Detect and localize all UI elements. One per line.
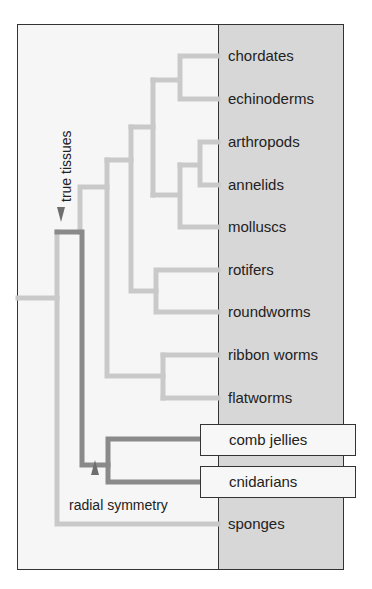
branch-molluscs (153, 165, 218, 227)
annotation-radial-symmetry: radial symmetry (69, 497, 168, 513)
branch-rotifers-roundworms (156, 270, 218, 312)
taxon-flatworms: flatworms (228, 389, 292, 407)
taxon-annelids: annelids (228, 176, 284, 194)
phylogenetic-tree (0, 0, 372, 589)
taxon-arthropods: arthropods (228, 133, 300, 151)
annotation-true-tissues: true tissues (58, 130, 74, 202)
taxon-molluscs: molluscs (228, 218, 286, 236)
taxon-box-comb-jellies: comb jellies (200, 424, 356, 456)
taxon-comb-jellies: comb jellies (229, 431, 307, 449)
branch-true-tissues (57, 232, 108, 465)
taxon-ribbon-worms: ribbon worms (228, 346, 318, 364)
taxon-echinoderms: echinoderms (228, 90, 314, 108)
true-tissues-marker-icon (57, 207, 65, 222)
light-branches (18, 56, 218, 524)
taxon-box-cnidarians: cnidarians (200, 466, 356, 498)
taxon-roundworms: roundworms (228, 303, 311, 321)
taxon-cnidarians: cnidarians (229, 473, 297, 491)
branch-radial-symmetry (108, 439, 200, 482)
taxon-sponges: sponges (228, 515, 285, 533)
taxon-rotifers: rotifers (228, 261, 274, 279)
taxon-chordates: chordates (228, 47, 294, 65)
branch-bilateria (80, 187, 107, 232)
branch-arthropods-annelids (180, 142, 218, 185)
branch-chordates-echinoderms (153, 56, 218, 99)
branch-ribbon-flat (163, 355, 218, 398)
